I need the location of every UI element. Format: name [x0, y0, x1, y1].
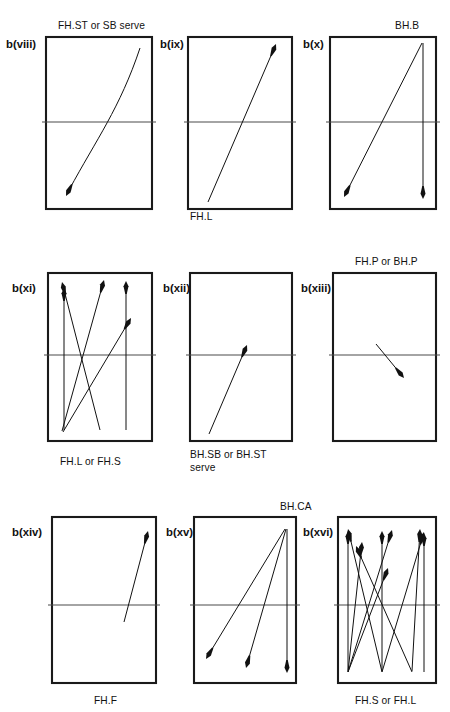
panel-identifier: b(viii) [6, 39, 36, 50]
panel-identifier: b(ix) [160, 39, 184, 50]
panel-stroke-label: FH.L or FH.S [60, 457, 121, 467]
panel-identifier: b(xii) [163, 283, 190, 294]
panel-identifier: b(xvi) [303, 527, 333, 538]
figure-root: b(viii)FH.ST or SB serveb(ix)FH.Lb(x)BH.… [0, 0, 450, 712]
court-panel-4 [44, 273, 156, 441]
panel-identifier: b(xv) [166, 527, 193, 538]
court-panel-8 [190, 517, 300, 683]
panel-stroke-label: FH.ST or SB serve [58, 21, 145, 31]
panel-identifier: b(x) [303, 39, 324, 50]
court-panel-6 [329, 273, 440, 441]
panel-stroke-label: BH.CA [280, 502, 312, 512]
court-rect [330, 37, 436, 209]
court-diagram-canvas [0, 0, 450, 712]
court-rect [194, 517, 296, 683]
panel-stroke-label: FH.P or BH.P [355, 257, 418, 267]
court-panel-5 [186, 273, 296, 441]
panel-stroke-label: FH.S or FH.L [355, 696, 416, 706]
court-rect [46, 37, 152, 209]
court-panel-7 [48, 517, 160, 683]
panel-stroke-label: FH.L [190, 212, 212, 222]
panel-identifier: b(xiii) [301, 283, 331, 294]
court-panel-2 [184, 37, 296, 209]
panel-stroke-label: BH.SB or BH.ST serve [190, 449, 267, 475]
court-rect [188, 37, 292, 209]
court-rect [190, 273, 292, 441]
court-panel-1 [42, 37, 156, 209]
panel-identifier: b(xiv) [12, 527, 42, 538]
court-panel-3 [326, 37, 440, 209]
panel-stroke-label: FH.F [94, 696, 117, 706]
court-panel-9 [334, 517, 440, 683]
court-rect [333, 273, 436, 441]
panel-identifier: b(xi) [12, 283, 36, 294]
panel-stroke-label: BH.B [395, 21, 419, 31]
court-rect [52, 517, 156, 683]
